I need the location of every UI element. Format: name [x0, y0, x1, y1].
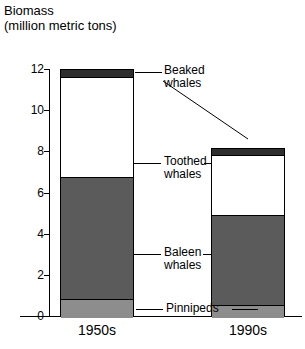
y-tick-8 [44, 151, 50, 152]
y-tick-10 [44, 110, 50, 111]
callout-pinnipeds: Pinnipeds [166, 302, 219, 315]
y-tick-label-0: 0 [24, 310, 44, 322]
y-tick-6 [44, 193, 50, 194]
bar-1950s-segment-baleen-whales [61, 177, 133, 299]
y-tick-label-2-wrap: 2 [0, 269, 44, 281]
callout-baleen-whales: Baleen whales [164, 246, 201, 272]
x-label-1950s: 1950s [47, 322, 147, 338]
bar-1990s-segment-baleen-whales [212, 215, 284, 305]
callout-toothed-line2: whales [164, 168, 207, 181]
bar-1950s-segment-beaked-whales [61, 70, 133, 77]
y-tick-12 [44, 69, 50, 70]
bar-1990s-segment-toothed-whales [212, 155, 284, 215]
y-tick-label-0-wrap: 0 [0, 310, 44, 322]
leader-baleen-right [203, 254, 212, 255]
y-tick-label-10: 10 [24, 104, 44, 116]
y-tick-label-6-wrap: 6 [0, 187, 44, 199]
y-tick-label-12-wrap: 12 [0, 63, 44, 75]
bar-1990s-segment-pinnipeds [212, 305, 284, 318]
y-tick-label-6: 6 [24, 187, 44, 199]
y-tick-4 [44, 234, 50, 235]
leader-toothed-left [133, 163, 161, 164]
y-tick-label-8-wrap: 8 [0, 145, 44, 157]
bar-1990s [211, 148, 285, 317]
y-tick-label-8: 8 [24, 145, 44, 157]
y-tick-label-12: 12 [24, 63, 44, 75]
leader-toothed-right [204, 163, 212, 164]
leader-baleen-left [133, 254, 161, 255]
leader-beaked-left [135, 72, 162, 73]
callout-baleen-line2: whales [164, 259, 201, 272]
x-label-1990s: 1990s [198, 322, 298, 338]
y-tick-label-4: 4 [24, 228, 44, 240]
leader-pinnipeds-left [136, 309, 163, 310]
bar-1950s-segment-toothed-whales [61, 77, 133, 177]
y-tick-label-4-wrap: 4 [0, 228, 44, 240]
callout-pinnipeds-label: Pinnipeds [166, 302, 219, 315]
bar-1950s-segment-pinnipeds [61, 299, 133, 318]
callout-toothed-whales: Toothed whales [164, 155, 207, 181]
leader-pinnipeds-right [232, 309, 258, 310]
plot-area: 12 10 8 6 4 2 0 [0, 0, 305, 349]
y-tick-label-2: 2 [24, 269, 44, 281]
bar-1950s [60, 69, 134, 317]
leader-beaked-diagonal [160, 70, 270, 150]
y-tick-label-10-wrap: 10 [0, 104, 44, 116]
y-tick-2 [44, 275, 50, 276]
biomass-stacked-bar-chart: Biomass (million metric tons) 12 10 8 6 … [0, 0, 305, 349]
